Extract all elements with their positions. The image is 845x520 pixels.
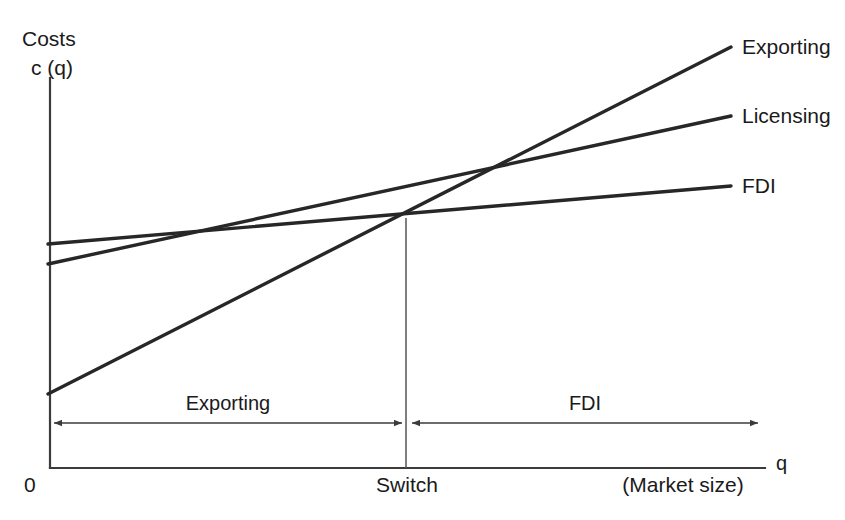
x-axis-title: q (776, 452, 787, 474)
y-axis-title-line2: c (q) (31, 56, 73, 79)
axis-group (50, 78, 765, 468)
region-label-fdi: FDI (569, 392, 601, 414)
exporting-cost-line (48, 47, 731, 394)
origin-tick-label: 0 (24, 473, 36, 496)
fdi-cost-line (48, 186, 731, 244)
cost-curves (48, 47, 731, 394)
switch-tick-label: Switch (376, 473, 438, 496)
y-axis-title-line1: Costs (22, 27, 76, 50)
region-label-exporting: Exporting (186, 392, 271, 414)
licensing-cost-line (48, 116, 731, 264)
x-axis-subtitle: (Market size) (622, 473, 743, 496)
series-label-licensing: Licensing (742, 104, 831, 127)
chart-canvas: Costs c (q) q (Market size) 0 Switch Exp… (0, 0, 845, 520)
series-label-fdi: FDI (742, 174, 776, 197)
cost-comparison-chart: Costs c (q) q (Market size) 0 Switch Exp… (0, 0, 845, 520)
series-label-exporting: Exporting (742, 35, 831, 58)
